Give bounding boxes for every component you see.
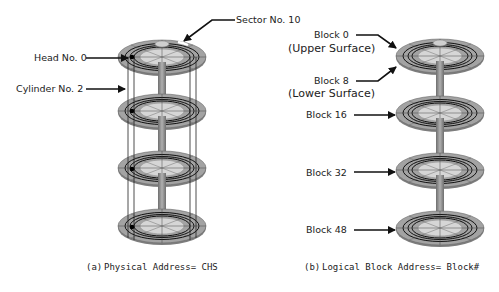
block8-label: Block 8 — [314, 75, 349, 86]
sector-label: Sector No. 10 — [236, 14, 300, 25]
head-label: Head No. 0 — [34, 52, 87, 63]
block32-label: Block 32 — [306, 167, 347, 178]
block16-label: Block 16 — [306, 109, 347, 120]
disk-addressing-diagram: Sector No. 10 Head No. 0 Cylinder No. 2 … — [0, 0, 499, 292]
cylinder-label: Cylinder No. 2 — [16, 83, 83, 94]
caption-a-prefix: (a) — [86, 262, 102, 272]
block48-label: Block 48 — [306, 224, 347, 235]
spindle-cap — [433, 40, 447, 46]
physical-chs-diagram: Sector No. 10 Head No. 0 Cylinder No. 2 … — [16, 14, 300, 272]
platter-4 — [396, 211, 484, 247]
caption-b: Logical Block Address= Block# — [322, 262, 480, 272]
block0-label: Block 0 — [314, 29, 349, 40]
caption-a: Physical Address= CHS — [104, 262, 218, 272]
upper-surface-label: (Upper Surface) — [288, 42, 375, 55]
sector-arrow — [184, 20, 235, 41]
logical-block-diagram: Block 0 (Upper Surface) Block 8 (Lower S… — [288, 29, 484, 272]
spindle-cap — [155, 41, 169, 47]
lower-surface-label: (Lower Surface) — [288, 87, 375, 100]
block8-arrow — [356, 67, 396, 81]
caption-b-prefix: (b) — [304, 262, 320, 272]
